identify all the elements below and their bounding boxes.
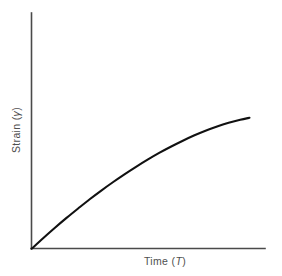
x-axis-label-suffix: ) <box>182 255 186 267</box>
x-axis-label: Time (T) <box>144 256 186 267</box>
figure-container: Strain (γ) Time (T) <box>0 0 282 276</box>
strain-gamma-symbol: γ <box>10 111 22 117</box>
x-axis-label-prefix: Time ( <box>144 255 175 267</box>
y-axis-label-prefix: Strain ( <box>10 116 22 153</box>
y-axis-label: Strain (γ) <box>11 107 22 153</box>
creep-curve <box>32 118 250 249</box>
y-axis-label-suffix: ) <box>10 107 22 111</box>
plot-canvas <box>0 0 282 276</box>
